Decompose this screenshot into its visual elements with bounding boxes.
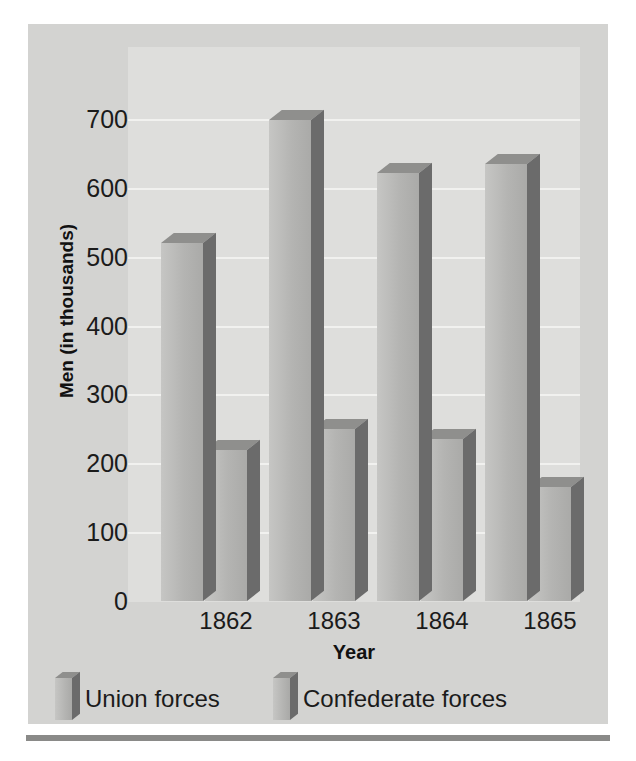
bar-side-face [571,477,584,601]
bar-front-face [377,173,419,601]
bar [161,243,203,601]
x-axis-title: Year [128,641,580,664]
y-axis-tick-label: 200 [58,451,128,476]
bar-side-face [419,163,432,601]
legend-swatch-face [273,678,290,720]
legend-swatch-side [290,672,298,720]
legend-swatch [273,678,290,720]
y-axis-tick-label: 100 [58,520,128,545]
bar-side-face [247,439,260,601]
legend-item: Union forces [55,676,220,722]
bar-side-face [203,233,216,601]
y-axis-title: Men (in thousands) [56,191,78,431]
bottom-divider [26,735,610,741]
bar [485,164,527,601]
x-axis-tick-label: 1862 [171,607,281,635]
legend-label: Union forces [85,685,220,713]
bar-side-face [463,429,476,601]
plot-area [128,47,580,602]
x-axis-tick-label: 1863 [279,607,389,635]
bar-front-face [485,164,527,601]
x-axis-tick-label: 1865 [495,607,605,635]
legend-label: Confederate forces [303,685,507,713]
bar-side-face [355,419,368,601]
legend-item: Confederate forces [273,676,507,722]
legend: Union forcesConfederate forces [55,676,575,722]
bar [269,120,311,601]
x-axis-tick-label: 1864 [387,607,497,635]
bar-front-face [161,243,203,601]
bar-side-face [311,110,324,601]
bar [377,173,419,601]
legend-swatch-face [55,678,72,720]
y-axis-tick-label: 0 [58,589,128,614]
chart-page: 0100200300400500600700 Men (in thousands… [0,0,636,761]
bar-front-face [269,120,311,601]
gridline [128,119,580,121]
bar-side-face [527,154,540,601]
legend-swatch-side [72,672,80,720]
y-axis-tick-label: 700 [58,107,128,132]
y-axis-tick-labels: 0100200300400500600700 [40,0,128,761]
legend-swatch [55,678,72,720]
